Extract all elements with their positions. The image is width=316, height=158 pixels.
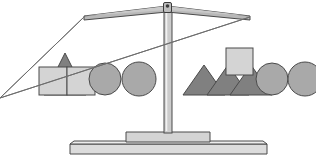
right-square-1: [226, 48, 253, 75]
right-circle-1: [256, 63, 288, 95]
base-plate: [70, 144, 267, 154]
balance-scale-figure: Balance scale with geometric shapes on t…: [0, 0, 316, 158]
left-circle-2: [122, 62, 156, 96]
pivot-dot-icon: [166, 4, 170, 8]
scale-canvas: [0, 0, 316, 158]
right-circle-2: [288, 62, 316, 96]
right-pan-contents: [183, 48, 316, 96]
center-post: [164, 9, 172, 133]
left-pan-contents: [39, 53, 156, 96]
